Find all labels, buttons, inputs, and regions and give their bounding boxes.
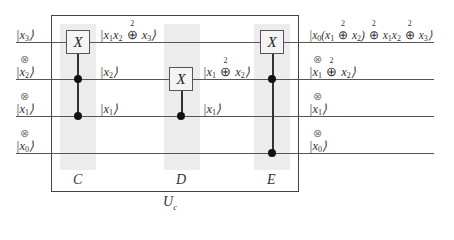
after-d-x2: |x1 ⊕2 x2⟩ [203,65,250,83]
wire-x0 [16,153,434,154]
gate-c-label: C [73,172,82,188]
frame-label: Uc [163,194,177,212]
gate-c-target: X [66,30,90,54]
gate-e-target: X [260,30,284,54]
after-c-x3: |x1x2 ⊕2 x3⟩ [100,28,156,46]
after-c-x2: |x2⟩ [100,65,118,83]
input-x1: |x1⟩ [16,102,34,120]
output-x1: |x1⟩ [309,102,327,120]
gate-e-control-x2 [268,75,276,83]
after-d-x1: |x1⟩ [203,102,221,120]
gate-c-control-x2 [74,75,82,83]
gate-d-target: X [169,67,193,91]
gate-e-label: E [267,172,276,188]
gate-d-control-x1 [177,112,185,120]
gate-c-control-line [77,54,79,116]
output-x3: |x0(x1 ⊕2 x2) ⊕2 x1x2 ⊕2 x3⟩ [309,28,432,46]
output-x0: |x0⟩ [309,139,327,157]
input-x2: |x2⟩ [16,65,34,83]
gate-e-control-line [272,54,274,153]
output-x2: |x1 ⊕2 x2⟩ [309,65,356,83]
gate-c-control-x1 [74,112,82,120]
input-x0: |x0⟩ [16,139,34,157]
gate-e-control-x0 [268,149,276,157]
after-c-x1: |x1⟩ [100,102,118,120]
gate-d-label: D [176,172,186,188]
input-x3: |x3⟩ [16,28,34,46]
